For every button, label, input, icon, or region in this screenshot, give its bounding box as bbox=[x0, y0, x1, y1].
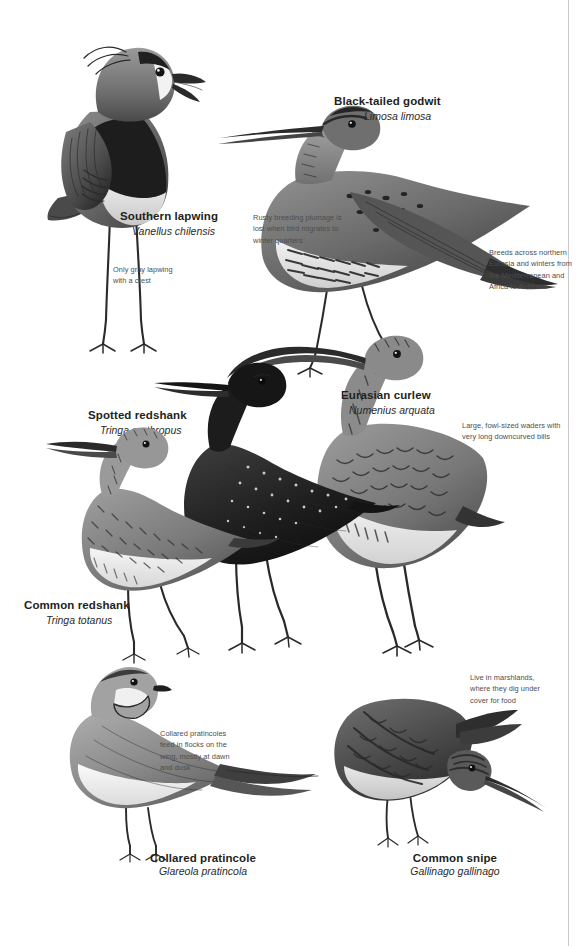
species-scientific-name: Glareola pratincola bbox=[118, 865, 288, 878]
species-common-name: Common redshank bbox=[24, 599, 130, 611]
caption-collared-pratincole: Collared pratincole Glareola pratincola bbox=[118, 851, 288, 878]
page-gutter-rule bbox=[568, 0, 569, 946]
note-godwit-range: Breeds across northern Eurasia and winte… bbox=[489, 247, 579, 292]
note-pratincole-feeding: Collared pratincoles feed in flocks on t… bbox=[160, 728, 270, 773]
illustration-common-redshank bbox=[28, 430, 288, 670]
note-godwit-plumage: Rusty breeding plumage is lost when bird… bbox=[253, 212, 383, 246]
species-common-name: Collared pratincole bbox=[118, 851, 288, 865]
caption-black-tailed-godwit: Black-tailed godwit Limosa limosa bbox=[334, 90, 441, 122]
species-scientific-name: Gallinago gallinago bbox=[385, 865, 525, 878]
caption-common-redshank: Common redshank Tringa totanus bbox=[24, 594, 130, 626]
caption-common-snipe: Common snipe Gallinago gallinago bbox=[385, 851, 525, 878]
species-scientific-name: Tringa totanus bbox=[24, 614, 130, 627]
note-curlew-bill: Large, fowl-sized waders with very long … bbox=[462, 420, 577, 443]
species-scientific-name: Limosa limosa bbox=[334, 110, 441, 123]
note-snipe-habitat: Live in marshlands, where they dig under… bbox=[470, 672, 575, 706]
species-common-name: Spotted redshank bbox=[88, 409, 187, 421]
species-common-name: Black-tailed godwit bbox=[334, 95, 441, 107]
species-common-name: Common snipe bbox=[385, 851, 525, 865]
plate-page: Southern lapwing Vanellus chilensis Only… bbox=[0, 0, 579, 946]
